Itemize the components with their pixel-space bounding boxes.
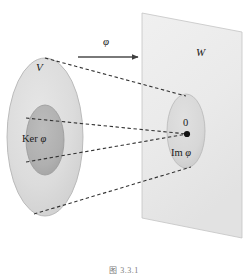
zero-label: 0 [183, 118, 188, 129]
figure-container: V W φ Ker φ 0 Im φ 图 3.3.1 [0, 0, 248, 276]
domain-label-V: V [36, 62, 43, 73]
codomain-label-W: W [196, 47, 205, 58]
image-label-prefix: Im [171, 147, 183, 158]
image-label: Im φ [171, 148, 191, 159]
kernel-label-phi: φ [40, 133, 46, 144]
kernel-label-prefix: Ker [22, 133, 38, 144]
kernel-label: Ker φ [22, 134, 46, 145]
map-label-phi: φ [103, 36, 109, 47]
zero-point-marker [184, 131, 190, 137]
image-label-phi: φ [185, 147, 191, 158]
figure-caption: 图 3.3.1 [0, 264, 248, 276]
